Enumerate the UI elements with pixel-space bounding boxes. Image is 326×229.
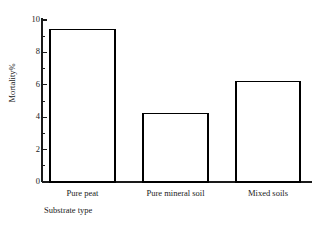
bar	[236, 82, 300, 182]
x-category-label: Pure peat	[33, 188, 133, 198]
x-category-label: Mixed soils	[218, 188, 318, 198]
x-axis-title: Substrate type	[44, 205, 92, 215]
x-axis-category-labels: Pure peatPure mineral soilMixed soils	[0, 188, 326, 202]
bar	[50, 30, 115, 182]
bar	[143, 113, 208, 182]
bar-series	[50, 30, 300, 182]
chart-figure: Mortality% 0246810 Pure peatPure mineral…	[0, 0, 326, 229]
axis-ticks	[42, 20, 47, 182]
x-category-label: Pure mineral soil	[126, 188, 226, 198]
